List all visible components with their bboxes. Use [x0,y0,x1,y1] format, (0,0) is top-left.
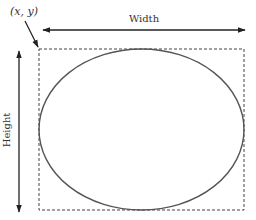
height-label: Height [1,113,12,148]
ellipse-shape [39,49,244,210]
origin-pointer-arrow [25,21,38,47]
origin-label: (x, y) [10,5,38,18]
width-label: Width [129,13,160,24]
diagram-svg: (x, y) Width Height [0,0,256,220]
ellipse-bounding-box-diagram: (x, y) Width Height [0,0,256,220]
bounding-box [39,49,244,210]
